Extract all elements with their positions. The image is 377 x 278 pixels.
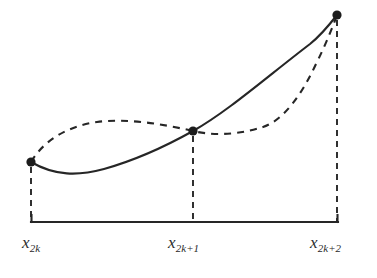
- axis-label-x2k1-base: x: [168, 233, 176, 252]
- node-left-dot: [26, 157, 35, 166]
- axis-label-x2k2-base: x: [310, 233, 318, 252]
- node-middle-dot: [188, 126, 197, 135]
- axis-label-x2k2-sub: 2k+2: [318, 242, 341, 254]
- axis-label-x2k: x2k: [22, 234, 40, 254]
- solid-curve: [31, 15, 337, 174]
- axis-label-x2k1-sub: 2k+1: [176, 242, 199, 254]
- figure-canvas: x2k x2k+1 x2k+2: [0, 0, 377, 278]
- axis-label-x2k-sub: 2k: [30, 242, 40, 254]
- x-axis: [31, 215, 338, 222]
- dashed-curve: [31, 15, 337, 162]
- axis-label-x2k-base: x: [22, 233, 30, 252]
- axis-label-x2k1: x2k+1: [168, 234, 199, 254]
- node-right-dot: [332, 10, 341, 19]
- axis-label-x2k2: x2k+2: [310, 234, 341, 254]
- node-markers: [26, 10, 341, 166]
- droplines: [31, 20, 337, 221]
